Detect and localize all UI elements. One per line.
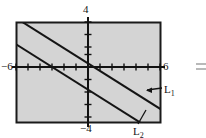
line-l2-letter: L: [133, 125, 140, 137]
y-axis-min-label: −4: [80, 123, 92, 134]
y-axis-max-label: 4: [83, 4, 89, 15]
x-axis-max-label: 6: [163, 61, 169, 72]
line-l2-label: L2: [133, 126, 144, 138]
graph-figure: 4 −4 −6 6 L1 L2: [0, 0, 206, 138]
cropped-equals-glyph: [196, 60, 206, 74]
line-l1-label: L1: [164, 84, 175, 98]
line-l1-letter: L: [164, 83, 171, 95]
line-l2-subscript: 2: [140, 131, 144, 138]
coordinate-graph-svg: [0, 0, 206, 138]
line-l1-subscript: 1: [171, 89, 175, 98]
x-axis-min-label: −6: [1, 61, 13, 72]
